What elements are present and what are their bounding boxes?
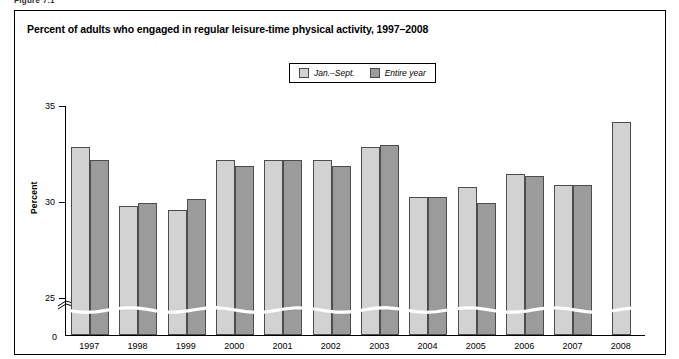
y-tick-label-35: 35 [45,101,55,111]
bar-group-2008 [598,106,646,335]
bar-2002-entire-year [332,166,351,335]
x-axis-label-1998: 1998 [127,341,147,351]
bar-2000-entire-year [235,166,254,335]
bar-2003-jan-sept [361,147,380,335]
bar-1997-entire-year [90,160,109,334]
plot-area: 253035 Percent 0 [65,106,645,336]
legend-item-entire-year: Entire year [370,68,426,78]
y-tick-label-25: 25 [45,293,55,303]
x-axis-label-2000: 2000 [224,341,244,351]
x-axis-label-2007: 2007 [562,341,582,351]
chart-title: Percent of adults who engaged in regular… [27,23,428,35]
y-tick-35: 35 [59,106,65,107]
bar-2001-jan-sept [264,160,283,334]
x-axis-labels: 1997199819992000200120022003200420052006… [65,341,645,355]
bar-group-2002 [308,106,356,335]
y-tick-30: 30 [59,202,65,203]
chart-legend: Jan.–Sept. Entire year [289,63,436,83]
bar-2003-entire-year [380,145,399,335]
bar-1998-jan-sept [119,206,138,334]
bar-group-1999 [163,106,211,335]
bar-group-2003 [356,106,404,335]
figure-number: Figure 7.1 [14,0,55,5]
bar-2008-jan-sept [612,122,631,335]
bar-group-1997 [66,106,114,335]
legend-label-entire-year: Entire year [385,68,426,78]
bar-group-2007 [549,106,597,335]
x-axis-label-2001: 2001 [272,341,292,351]
bar-2007-entire-year [573,185,592,335]
bar-group-2004 [404,106,452,335]
bar-group-2000 [211,106,259,335]
bar-group-2001 [259,106,307,335]
bar-2006-entire-year [525,176,544,335]
bar-group-2006 [501,106,549,335]
bar-1998-entire-year [138,203,157,335]
bar-2004-entire-year [428,197,447,335]
x-axis-label-1997: 1997 [79,341,99,351]
figure-frame: Percent of adults who engaged in regular… [14,10,666,355]
y-axis-zero-label: 0 [52,332,57,342]
bar-2002-jan-sept [313,160,332,334]
bar-2001-entire-year [283,160,302,334]
x-axis-label-2003: 2003 [369,341,389,351]
bar-1997-jan-sept [71,147,90,335]
bar-2005-entire-year [477,203,496,335]
legend-label-jan-sept: Jan.–Sept. [314,68,355,78]
bar-series-container [66,106,645,335]
x-axis-label-2006: 2006 [514,341,534,351]
legend-item-jan-sept: Jan.–Sept. [299,68,355,78]
x-axis-line [65,335,645,336]
y-tick-label-30: 30 [45,197,55,207]
y-axis-label: Percent [29,181,39,214]
bar-group-2005 [453,106,501,335]
x-axis-label-2004: 2004 [417,341,437,351]
bar-2007-jan-sept [554,185,573,335]
bar-1999-entire-year [187,199,206,335]
x-axis-label-2005: 2005 [466,341,486,351]
legend-swatch-light-icon [299,68,309,78]
x-axis-label-2002: 2002 [321,341,341,351]
bar-2005-jan-sept [458,187,477,335]
legend-swatch-dark-icon [370,68,380,78]
x-axis-label-2008: 2008 [611,341,631,351]
bar-2004-jan-sept [409,197,428,335]
x-axis-label-1999: 1999 [176,341,196,351]
bar-1999-jan-sept [168,210,187,335]
bar-2000-jan-sept [216,160,235,334]
bar-group-1998 [114,106,162,335]
bar-2006-jan-sept [506,174,525,335]
